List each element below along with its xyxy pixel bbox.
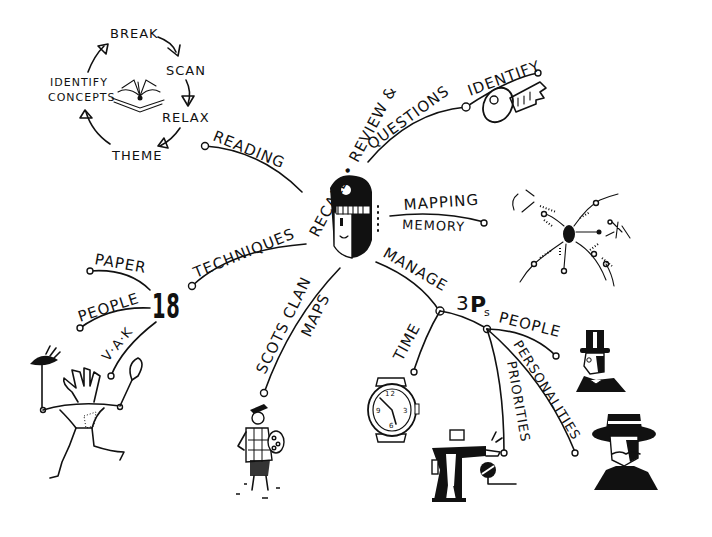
cycle-step-theme: THEME [111,148,162,163]
ps-sub-label: s [484,306,491,319]
vak-label: V·A·K [99,324,136,364]
cycle-arrow-identify-break [88,44,108,72]
svg-text:6: 6 [389,422,394,430]
highlander-icon [236,404,284,498]
people-left-label: PEOPLE [76,289,142,326]
branch-vak: V·A·K [99,322,156,379]
cycle-arrow-scan-relax [182,80,194,106]
cycle-step-break: BREAK [110,26,159,41]
central-node: RECALL • REVIEW & [306,83,401,258]
cycle-step-relax: RELAX [162,110,210,125]
reading-cycle: BREAK SCAN RELAX THEME IDENTIFY CONCEPTS [48,26,210,163]
cycle-step-concepts-text: CONCEPTS [48,91,116,104]
eighteen-label: 18 [152,286,181,326]
three-label: 3 [456,291,470,315]
branch-scots-clan-maps: SCOTS CLAN MAPS [252,268,340,397]
time-label: TIME [389,320,424,365]
people-right-label: PEOPLE [497,308,563,341]
branch-questions: QUESTIONS IDENTIFY [364,57,546,162]
cycle-arrow-relax-theme [158,128,180,148]
cycle-step-identify: IDENTIFY [50,76,108,89]
branch-time: TIME [389,311,440,375]
mapping-label: MAPPING [403,191,480,214]
memory-label: MEMORY [402,217,466,234]
mini-mind-map-icon [513,190,630,286]
cycle-step-scan: SCAN [166,63,206,78]
branch-paper: PAPER [87,250,150,290]
vak-figure-icon [30,346,142,478]
mind-map-canvas: BREAK SCAN RELAX THEME IDENTIFY CONCEPTS [0,0,712,537]
reading-label: READING [211,127,288,172]
svg-text:3: 3 [403,407,408,415]
svg-text:12: 12 [385,390,396,398]
branch-manage: MANAGE 3 P s [376,244,491,333]
top-hat-gentleman-icon [576,330,626,392]
branch-people-left: PEOPLE [76,289,150,331]
cycle-arrow-theme-identify [80,110,110,144]
wristwatch-icon: 12 3 6 9 [368,378,419,442]
branch-personalities: PERSONALITIES [487,329,584,456]
svg-text:9: 9 [376,407,381,415]
open-book-icon [112,80,164,112]
branch-reading: READING [202,127,303,192]
techniques-label: TECHNIQUES [190,225,298,282]
wide-hat-gentleman-icon [592,414,658,490]
cycle-arrow-break-scan [158,37,180,56]
branch-mapping-memory: MAPPING MEMORY [390,191,487,234]
